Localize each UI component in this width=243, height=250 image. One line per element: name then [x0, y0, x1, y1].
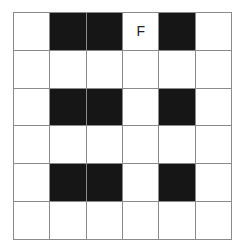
grid-cell-empty: [195, 201, 231, 239]
grid-cell-filled: [86, 163, 122, 201]
grid-cell-empty: [158, 50, 194, 88]
grid-cell-filled: [49, 12, 85, 50]
grid-cell-filled: [86, 12, 122, 50]
grid-cell-filled: [158, 163, 194, 201]
grid-cell-empty: [158, 125, 194, 163]
grid-cell-empty: [122, 125, 158, 163]
grid-cell-empty: [49, 201, 85, 239]
grid-cell-empty: [195, 88, 231, 126]
grid-cell-filled: [158, 88, 194, 126]
grid-cell-empty: [13, 50, 49, 88]
grid-cell-empty: [195, 163, 231, 201]
grid-cell-empty: [13, 201, 49, 239]
grid-cell-empty: [49, 125, 85, 163]
grid-diagram: F: [13, 12, 232, 240]
grid-cell-empty: [86, 125, 122, 163]
grid-cell-filled: [158, 12, 194, 50]
grid-cell-empty: [122, 163, 158, 201]
grid-cell-empty: [13, 12, 49, 50]
grid-cell-labeled: F: [122, 12, 158, 50]
grid-cell-empty: [13, 88, 49, 126]
grid-cell-filled: [49, 163, 85, 201]
grid-cell-empty: [195, 125, 231, 163]
grid-cell-empty: [158, 201, 194, 239]
grid-cell-empty: [122, 50, 158, 88]
grid-cell-empty: [86, 201, 122, 239]
grid-cell-empty: [13, 163, 49, 201]
grid-cell-empty: [122, 201, 158, 239]
grid-cell-filled: [49, 88, 85, 126]
grid-cell-empty: [195, 50, 231, 88]
grid-cell-empty: [195, 12, 231, 50]
grid-cell-empty: [122, 88, 158, 126]
grid-cell-empty: [49, 50, 85, 88]
grid-cell-filled: [86, 88, 122, 126]
grid-cell-empty: [86, 50, 122, 88]
grid-cell-empty: [13, 125, 49, 163]
